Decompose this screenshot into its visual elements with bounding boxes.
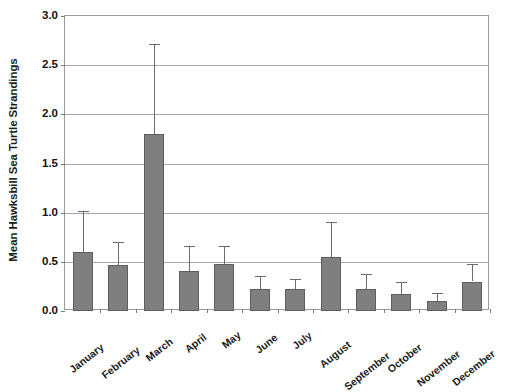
x-tick-mark — [490, 309, 491, 313]
y-axis-title: Mean Hawksbill Sea Turtle Strandings — [0, 0, 26, 320]
error-bar-cap-june — [255, 276, 266, 277]
error-bar-august — [331, 222, 332, 257]
y-tick-mark — [61, 213, 65, 214]
error-bar-october — [401, 282, 402, 295]
x-tick-mark — [419, 309, 420, 313]
error-bar-july — [295, 279, 296, 290]
x-tick-mark — [100, 309, 101, 313]
x-tick-mark — [242, 309, 243, 313]
bar-november — [427, 301, 447, 311]
y-tick-label: 1.0 — [28, 206, 58, 218]
error-bar-cap-may — [219, 246, 230, 247]
bar-february — [108, 265, 128, 311]
bar-may — [214, 264, 234, 311]
plot-area — [64, 15, 489, 310]
y-tick-mark — [61, 311, 65, 312]
x-tick-label-april: April — [182, 331, 208, 355]
bar-october — [391, 294, 411, 311]
bar-december — [462, 282, 482, 312]
y-tick-mark — [61, 262, 65, 263]
error-bar-cap-november — [432, 293, 443, 294]
gridline-y-1.5 — [65, 164, 488, 165]
x-tick-label-july: July — [290, 329, 314, 351]
x-tick-label-june: June — [253, 331, 280, 356]
bar-july — [285, 289, 305, 311]
error-bar-cap-october — [396, 282, 407, 283]
bar-march — [144, 134, 164, 311]
error-bar-cap-march — [149, 44, 160, 45]
gridline-y-1.0 — [65, 213, 488, 214]
x-tick-mark — [384, 309, 385, 313]
x-tick-mark — [207, 309, 208, 313]
x-tick-label-august: August — [317, 338, 353, 370]
error-bar-cap-july — [290, 279, 301, 280]
error-bar-cap-december — [467, 264, 478, 265]
error-bar-cap-august — [326, 222, 337, 223]
error-bar-december — [472, 264, 473, 282]
y-tick-label: 2.5 — [28, 58, 58, 70]
y-tick-label: 2.0 — [28, 107, 58, 119]
y-tick-mark — [61, 16, 65, 17]
y-tick-label: 1.5 — [28, 157, 58, 169]
y-axis-title-text: Mean Hawksbill Sea Turtle Strandings — [7, 58, 19, 261]
bar-august — [321, 257, 341, 311]
x-tick-mark — [171, 309, 172, 313]
error-bar-cap-september — [361, 274, 372, 275]
x-tick-mark — [136, 309, 137, 313]
y-tick-label: 0.0 — [28, 304, 58, 316]
x-tick-label-september: September — [342, 349, 392, 392]
error-bar-may — [224, 246, 225, 264]
error-bar-september — [366, 274, 367, 290]
error-bar-april — [189, 246, 190, 271]
bar-june — [250, 289, 270, 311]
y-axis-tick-labels: 0.00.51.01.52.02.53.0 — [26, 0, 58, 374]
error-bar-cap-january — [78, 211, 89, 212]
y-tick-mark — [61, 164, 65, 165]
y-tick-label: 3.0 — [28, 9, 58, 21]
gridline-y-0.5 — [65, 262, 488, 263]
gridline-y-2.5 — [65, 65, 488, 66]
bar-september — [356, 289, 376, 311]
error-bar-june — [260, 276, 261, 290]
error-bar-march — [154, 44, 155, 134]
gridline-y-2.0 — [65, 114, 488, 115]
error-bar-cap-april — [184, 246, 195, 247]
x-tick-mark — [348, 309, 349, 313]
error-bar-november — [437, 293, 438, 301]
y-tick-mark — [61, 114, 65, 115]
y-tick-mark — [61, 65, 65, 66]
x-tick-label-may: May — [220, 329, 243, 351]
error-bar-january — [83, 211, 84, 252]
bar-april — [179, 271, 199, 311]
error-bar-cap-february — [113, 242, 124, 243]
error-bar-february — [118, 242, 119, 265]
y-tick-label: 0.5 — [28, 255, 58, 267]
x-tick-label-march: March — [143, 335, 175, 364]
bar-january — [73, 252, 93, 311]
x-tick-mark — [313, 309, 314, 313]
x-tick-mark — [278, 309, 279, 313]
x-tick-mark — [455, 309, 456, 313]
